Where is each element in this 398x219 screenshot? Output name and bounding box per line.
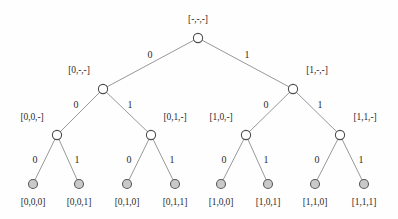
tree-internal-node[interactable] <box>146 130 155 139</box>
tree-internal-node[interactable] <box>52 130 61 139</box>
edge-label: 0 <box>315 155 320 165</box>
leaf-node-label: [1,0,1] <box>256 198 281 208</box>
internal-node-label: [0,1,-] <box>163 113 186 123</box>
tree-internal-node[interactable] <box>288 84 297 93</box>
edge-label: 0 <box>222 155 227 165</box>
tree-graphics <box>0 0 398 219</box>
tree-internal-node[interactable] <box>193 33 202 42</box>
edge-label: 1 <box>264 155 269 165</box>
internal-node-label: [1,0,-] <box>209 113 232 123</box>
edge-label: 1 <box>75 155 80 165</box>
tree-internal-node[interactable] <box>241 130 250 139</box>
leaf-node-label: [0,1,1] <box>163 198 188 208</box>
tree-leaf-node[interactable] <box>360 180 369 189</box>
binary-decision-tree-figure: [-,-,-][0,-,-][1,-,-][0,0,-][0,1,-][1,0,… <box>0 0 398 219</box>
tree-edge <box>296 92 336 132</box>
internal-node-label: [-,-,-] <box>188 15 208 25</box>
edge-label: 1 <box>245 50 250 60</box>
leaf-node-label: [1,0,0] <box>209 198 234 208</box>
tree-leaf-node[interactable] <box>311 180 320 189</box>
leaf-node-label: [0,0,1] <box>67 198 92 208</box>
leaf-node-label: [0,1,0] <box>115 198 140 208</box>
edge-label: 1 <box>318 100 323 110</box>
tree-leaf-node[interactable] <box>217 180 226 189</box>
tree-internal-node[interactable] <box>335 130 344 139</box>
tree-internal-node[interactable] <box>98 84 107 93</box>
tree-edge <box>317 139 338 180</box>
tree-edge <box>129 139 149 180</box>
tree-edge <box>35 139 55 180</box>
edge-label: 0 <box>74 100 79 110</box>
edge-label: 0 <box>127 155 132 165</box>
internal-node-label: [1,-,-] <box>306 66 327 76</box>
leaf-node-label: [0,0,0] <box>21 198 46 208</box>
internal-node-label: [1,1,-] <box>353 113 376 123</box>
tree-edge <box>249 92 289 132</box>
edge-label: 1 <box>128 100 133 110</box>
leaf-node-label: [1,1,1] <box>352 198 377 208</box>
edge-label: 0 <box>33 155 38 165</box>
internal-node-label: [0,-,-] <box>68 66 89 76</box>
internal-node-label: [0,0,-] <box>20 113 43 123</box>
tree-edge <box>202 40 289 87</box>
edge-label: 1 <box>170 155 175 165</box>
edge-label: 1 <box>359 155 364 165</box>
tree-leaf-node[interactable] <box>264 180 273 189</box>
tree-leaf-node[interactable] <box>75 180 84 189</box>
edge-label: 0 <box>264 100 269 110</box>
tree-edge <box>60 92 99 131</box>
tree-leaf-node[interactable] <box>29 180 38 189</box>
tree-leaf-node[interactable] <box>171 180 180 189</box>
leaf-node-label: [1,1,0] <box>303 198 328 208</box>
tree-edge <box>107 40 194 87</box>
tree-leaf-node[interactable] <box>123 180 132 189</box>
edge-label: 0 <box>148 50 153 60</box>
